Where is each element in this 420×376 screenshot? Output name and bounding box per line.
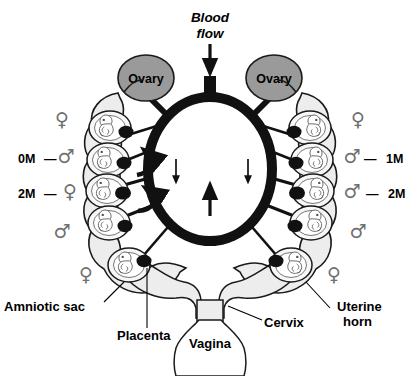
placenta-left-2 (117, 157, 132, 169)
cervix-structure (197, 300, 223, 322)
ovary-left: Ovary (118, 55, 174, 101)
placenta-label: Placenta (117, 328, 171, 343)
mark-label-1M: 1M (386, 152, 403, 166)
diagram-canvas: Ovary Ovary (0, 0, 420, 376)
placenta-left-4 (118, 220, 133, 232)
placenta-right-3 (289, 186, 305, 199)
uterine-horn-label-line2: horn (343, 314, 372, 329)
ovary-right: Ovary (246, 55, 302, 101)
sex-symbol-right-5: ♀ (327, 263, 341, 285)
sex-symbol-right-1: ♀ (351, 108, 365, 130)
placenta-right-2 (289, 157, 304, 169)
dash-left-1: — (44, 152, 57, 166)
sex-symbol-left-5: ♀ (79, 263, 93, 285)
sex-symbol-left-1: ♀ (55, 108, 69, 130)
placenta-right-4 (288, 220, 303, 232)
placenta-left-5 (137, 255, 152, 267)
dash-left-2: — (44, 187, 57, 201)
vagina-label: Vagina (189, 336, 232, 351)
placenta-right-5 (269, 255, 284, 267)
placenta-right-1 (287, 126, 302, 138)
sex-symbol-left-3: ♀ (63, 180, 77, 202)
blood-flow-label-line1: Blood (191, 10, 230, 25)
amniotic-sac-label: Amniotic sac (4, 299, 85, 314)
sex-symbol-right-2: ♂ (343, 145, 360, 167)
ovary-right-label: Ovary (256, 72, 291, 86)
ovary-left-label: Ovary (128, 72, 163, 86)
uterine-artery-ring (148, 97, 272, 241)
placenta-left-3 (115, 186, 131, 199)
mark-label-2M-left: 2M (18, 187, 35, 201)
uterine-horn-label-line1: Uterine (337, 299, 382, 314)
placenta-left-1 (119, 126, 134, 138)
cervix-label: Cervix (264, 315, 305, 330)
fetus-right-5 (269, 248, 313, 282)
mark-label-2M-right: 2M (388, 187, 405, 201)
sex-symbol-right-3: ♂ (343, 180, 360, 202)
sex-symbol-right-4: ♂ (349, 220, 366, 242)
dash-right-1: — (364, 152, 377, 166)
dash-right-2: — (366, 187, 379, 201)
fetus-left-5 (108, 248, 152, 282)
sex-symbol-left-2: ♂ (57, 145, 74, 167)
mark-label-0M: 0M (18, 152, 35, 166)
sex-symbol-left-4: ♂ (53, 220, 70, 242)
blood-flow-label-line2: flow (197, 26, 225, 41)
